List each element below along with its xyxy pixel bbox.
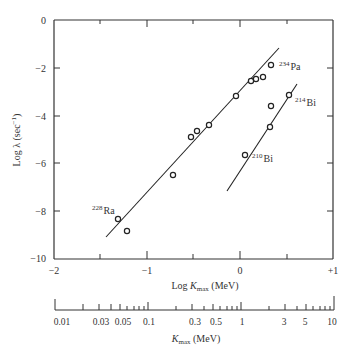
y-tick-labels: 0 −2 −4 −6 −8 −10 bbox=[30, 15, 46, 264]
sargent-plot: 0 −2 −4 −6 −8 −10 −2 −1 0 +1 Log λ (sec−… bbox=[0, 0, 355, 361]
data-point bbox=[124, 228, 129, 233]
x-tick-pos1: +1 bbox=[328, 265, 339, 276]
kmax-tick: 1 bbox=[240, 317, 245, 327]
kmax-tick: 0.1 bbox=[143, 317, 155, 327]
kmax-tick: 10 bbox=[327, 317, 337, 327]
y-tick-neg8: −8 bbox=[35, 206, 46, 217]
kmax-tick: 5 bbox=[303, 317, 308, 327]
data-point bbox=[260, 74, 265, 79]
data-points bbox=[115, 62, 291, 233]
data-point bbox=[170, 172, 175, 177]
annotation-214bi: 214Bi bbox=[295, 96, 316, 108]
kmax-tick: 0.5 bbox=[210, 317, 222, 327]
x-tick-neg1: −1 bbox=[142, 265, 153, 276]
y-tick-neg6: −6 bbox=[35, 158, 46, 169]
point-214bi bbox=[286, 92, 291, 97]
kmax-tick: 3 bbox=[282, 317, 287, 327]
y-tick-0: 0 bbox=[41, 15, 46, 26]
annotation-234pa: 234Pa bbox=[279, 60, 301, 72]
kmax-tick: 0.05 bbox=[115, 317, 132, 327]
data-point bbox=[233, 93, 238, 98]
annotation-228ra: 228Ra bbox=[92, 204, 115, 216]
x-axis-ticks bbox=[100, 20, 287, 259]
x-tick-labels: −2 −1 0 +1 bbox=[49, 265, 339, 276]
plot-frame bbox=[54, 20, 333, 259]
x-tick-0: 0 bbox=[238, 265, 243, 276]
y-tick-neg4: −4 bbox=[35, 111, 46, 122]
y-tick-neg2: −2 bbox=[35, 63, 46, 74]
fit-line-upper bbox=[106, 48, 279, 237]
y-tick-neg10: −10 bbox=[30, 253, 46, 264]
y-axis-label: Log λ (sec−1) bbox=[10, 114, 23, 167]
kmax-tick-labels: 0.01 0.03 0.05 0.1 0.3 0.5 1 3 5 10 bbox=[54, 317, 337, 327]
y-axis-ticks bbox=[54, 68, 333, 211]
x-axis-label: Log Kmax (MeV) bbox=[171, 280, 238, 293]
fit-line-lower bbox=[227, 84, 297, 191]
data-point bbox=[194, 128, 199, 133]
x-tick-neg2: −2 bbox=[49, 265, 60, 276]
data-point bbox=[267, 124, 272, 129]
data-point bbox=[206, 122, 211, 127]
kmax-tick: 0.03 bbox=[93, 317, 110, 327]
data-point bbox=[253, 76, 258, 81]
point-228ra bbox=[115, 216, 120, 221]
point-234pa bbox=[268, 62, 273, 67]
point-210bi bbox=[242, 152, 247, 157]
kmax-tick: 0.3 bbox=[189, 317, 201, 327]
kmax-scale bbox=[55, 296, 334, 310]
data-point bbox=[268, 103, 273, 108]
data-point bbox=[188, 134, 193, 139]
kmax-axis-label: Kmax (MeV) bbox=[171, 333, 220, 346]
annotation-210bi: 210Bi bbox=[252, 152, 273, 164]
kmax-tick: 0.01 bbox=[54, 317, 71, 327]
